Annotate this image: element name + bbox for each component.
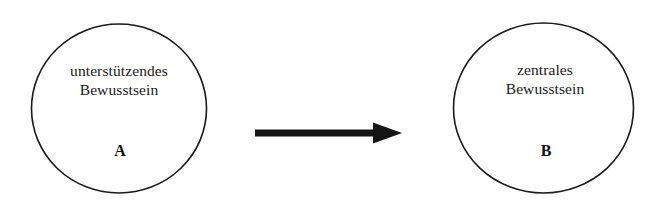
node-b-tag: B xyxy=(519,142,573,160)
node-b-label-line-1: zentrales xyxy=(468,61,622,80)
diagram-canvas: unterstützendes Bewusstsein A zentrales … xyxy=(0,0,662,210)
node-b-label: zentrales Bewusstsein xyxy=(468,61,622,99)
node-b-label-line-2: Bewusstsein xyxy=(468,80,622,99)
circle-outline-b xyxy=(0,0,662,210)
